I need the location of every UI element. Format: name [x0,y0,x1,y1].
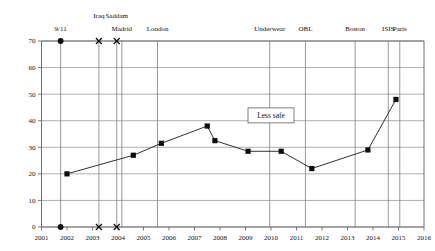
y-tick-label-50: 50 [29,91,37,99]
x-tick-label-2001: 2001 [35,234,50,242]
x-tick-label-2015: 2015 [392,234,407,242]
x-tick-label-2013: 2013 [341,234,356,242]
event-label-paris: Paris [393,25,407,33]
annotation-less-safe: Less safe [248,108,294,123]
y-axis-tick-labels: 010203040506070 [29,37,37,231]
x-tick-label-2004: 2004 [111,234,126,242]
event-label-madrid: Madrid [112,25,133,33]
x-tick-label-2007: 2007 [188,234,203,242]
data-point-9 [393,97,398,102]
x-tick-label-2016: 2016 [417,234,432,242]
data-point-6 [279,149,284,154]
data-point-8 [365,147,370,152]
x-tick-label-2003: 2003 [86,234,101,242]
event-marker-dot-9-11-bottom [58,224,64,230]
event-markers [58,38,120,230]
x-tick-label-2014: 2014 [366,234,381,242]
event-label-iraq: Iraq [93,12,105,20]
data-point-4 [212,138,217,143]
data-point-1 [131,153,136,158]
data-point-7 [309,166,314,171]
y-tick-label-30: 30 [29,144,37,152]
event-label-boston: Boston [345,25,365,33]
x-tick-label-2009: 2009 [239,234,254,242]
y-tick-label-60: 60 [29,64,37,72]
annotation-label: Less safe [257,111,285,120]
series-markers [64,97,398,177]
y-tick-label-40: 40 [29,117,37,125]
event-label-saddam: Saddam [105,12,128,20]
x-tick-label-2012: 2012 [315,234,330,242]
data-point-3 [205,123,210,128]
x-tick-label-2002: 2002 [60,234,75,242]
gridlines-event-vertical [61,41,400,227]
y-tick-label-70: 70 [29,37,37,45]
event-label-obl: OBL [298,25,312,33]
data-point-2 [159,141,164,146]
event-label-underwear: Underwear [254,25,286,33]
x-tick-label-2005: 2005 [137,234,152,242]
y-tick-label-20: 20 [29,170,37,178]
event-marker-dot-9-11-top [58,38,64,44]
line-chart: 010203040506070 200120022003200420052006… [0,0,435,251]
event-label-9-11: 9/11 [55,25,68,33]
x-tick-label-2008: 2008 [213,234,228,242]
x-tick-label-2011: 2011 [290,234,304,242]
data-point-0 [64,171,69,176]
x-tick-label-2006: 2006 [162,234,177,242]
data-point-5 [245,149,250,154]
x-tick-label-2010: 2010 [264,234,279,242]
y-axis-ticks [38,41,42,227]
event-label-london: London [147,25,169,33]
y-tick-label-10: 10 [29,197,37,205]
y-tick-label-0: 0 [32,223,36,231]
event-labels: 9/11IraqSaddamMadridLondonUnderwearOBLBo… [55,12,408,33]
x-axis-tick-labels: 2001200220032004200520062007200820092010… [35,234,432,242]
chart-container: 010203040506070 200120022003200420052006… [0,0,435,251]
